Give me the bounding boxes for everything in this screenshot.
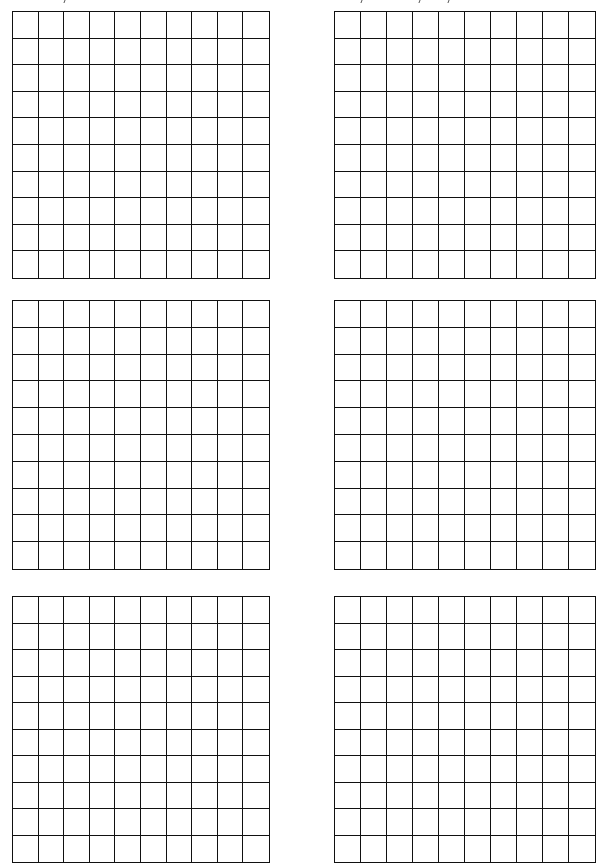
grid-cell: [141, 172, 167, 199]
grid-cell: [439, 756, 465, 783]
grid-cell: [387, 515, 413, 542]
grid-cell: [335, 12, 361, 39]
grid-cell: [465, 435, 491, 462]
grid-cell: [413, 624, 439, 651]
cropped-header-text: [0, 0, 604, 6]
grid-cell: [141, 251, 167, 278]
grid-cell: [491, 515, 517, 542]
grid-cell: [335, 597, 361, 624]
grid-cell: [167, 39, 193, 66]
grid-cell: [413, 730, 439, 757]
grid-cell: [491, 650, 517, 677]
grid-cell: [361, 39, 387, 66]
grid-cell: [569, 597, 595, 624]
grid-cell: [387, 597, 413, 624]
grid-cell: [13, 355, 39, 382]
grid-cell: [465, 783, 491, 810]
grid-cell: [167, 328, 193, 355]
grid-cell: [90, 251, 116, 278]
grid-cell: [517, 251, 543, 278]
grid-cell: [141, 328, 167, 355]
grid-cell: [569, 12, 595, 39]
grid-cell: [141, 783, 167, 810]
grid-cell: [141, 462, 167, 489]
grid-cell: [413, 703, 439, 730]
grid-cell: [115, 730, 141, 757]
grid-cell: [167, 836, 193, 863]
grid-cell: [387, 12, 413, 39]
grid-cell: [361, 328, 387, 355]
grid-cell: [218, 118, 244, 145]
grid-cell: [115, 703, 141, 730]
grid-cell: [543, 381, 569, 408]
grid-cell: [90, 381, 116, 408]
grid-cell: [13, 435, 39, 462]
grid-cell: [141, 515, 167, 542]
grid-cell: [491, 435, 517, 462]
grid-cell: [243, 435, 269, 462]
grid-cell: [543, 198, 569, 225]
grid-cell: [413, 597, 439, 624]
grid-cell: [39, 408, 65, 435]
grid-cell: [361, 489, 387, 516]
grid-cell: [439, 677, 465, 704]
glyph-descender: [418, 0, 423, 3]
grid-cell: [517, 301, 543, 328]
grid-cell: [192, 462, 218, 489]
grid-cell: [491, 355, 517, 382]
grid-row1-left: [12, 11, 270, 279]
grid-cell: [517, 328, 543, 355]
grid-cell: [413, 836, 439, 863]
grid-cell: [361, 677, 387, 704]
grid-cell: [115, 145, 141, 172]
grid-cell: [439, 381, 465, 408]
grid-cell: [413, 12, 439, 39]
grid-cell: [90, 39, 116, 66]
grid-cell: [413, 145, 439, 172]
grid-cell: [335, 730, 361, 757]
grid-cell: [13, 251, 39, 278]
grid-cell: [141, 65, 167, 92]
grid-cell: [115, 836, 141, 863]
grid-cell: [465, 624, 491, 651]
grid-cell: [413, 355, 439, 382]
grid-cell: [517, 65, 543, 92]
grid-cell: [141, 489, 167, 516]
grid-cell: [387, 381, 413, 408]
grid-cell: [335, 92, 361, 119]
grid-cell: [243, 301, 269, 328]
grid-cell: [569, 677, 595, 704]
grid-cell: [90, 65, 116, 92]
grid-cell: [439, 542, 465, 569]
grid-cell: [192, 39, 218, 66]
grid-cell: [569, 624, 595, 651]
grid-cell: [192, 809, 218, 836]
grid-cell: [64, 489, 90, 516]
grid-cell: [361, 381, 387, 408]
grid-cell: [243, 756, 269, 783]
grid-cell: [543, 435, 569, 462]
grid-cell: [90, 836, 116, 863]
grid-cell: [218, 489, 244, 516]
grid-cell: [413, 39, 439, 66]
grid-cell: [243, 624, 269, 651]
grid-cell: [167, 225, 193, 252]
grid-cell: [413, 677, 439, 704]
grid-cell: [64, 198, 90, 225]
grid-cell: [569, 489, 595, 516]
grid-cell: [218, 145, 244, 172]
grid-cell: [243, 515, 269, 542]
grid-cell: [192, 542, 218, 569]
grid-cell: [335, 198, 361, 225]
grid-cell: [115, 489, 141, 516]
grid-cell: [64, 145, 90, 172]
grid-cell: [115, 39, 141, 66]
grid-cell: [141, 624, 167, 651]
grid-cell: [335, 251, 361, 278]
grid-cell: [141, 756, 167, 783]
grid-cell: [543, 251, 569, 278]
grid-cell: [491, 783, 517, 810]
grid-cell: [13, 381, 39, 408]
grid-cell: [39, 381, 65, 408]
grid-cell: [517, 597, 543, 624]
